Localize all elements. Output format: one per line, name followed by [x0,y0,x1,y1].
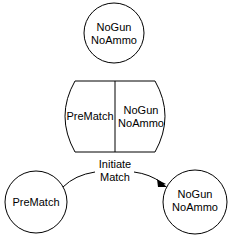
target-state-line2: NoAmmo [172,201,218,213]
top-state-line2: NoAmmo [91,34,137,46]
source-state: PreMatch [5,171,67,233]
target-state-line1: NoGun [178,188,213,200]
top-state: NoGun NoAmmo [84,3,144,63]
transition-label-line2: Match [100,171,130,183]
transition-arrow: Initiate Match [63,158,167,187]
target-state: NoGun NoAmmo [163,170,227,234]
top-state-line1: NoGun [97,21,132,33]
composite-left-label: PreMatch [66,110,113,122]
composite-state: PreMatch NoGun NoAmmo [65,81,165,152]
composite-right-line2: NoAmmo [118,117,164,129]
transition-label-line1: Initiate [99,158,131,170]
composite-right-line1: NoGun [124,104,159,116]
state-diagram: NoGun NoAmmo PreMatch NoGun NoAmmo Initi… [0,0,229,239]
source-state-label: PreMatch [12,196,59,208]
